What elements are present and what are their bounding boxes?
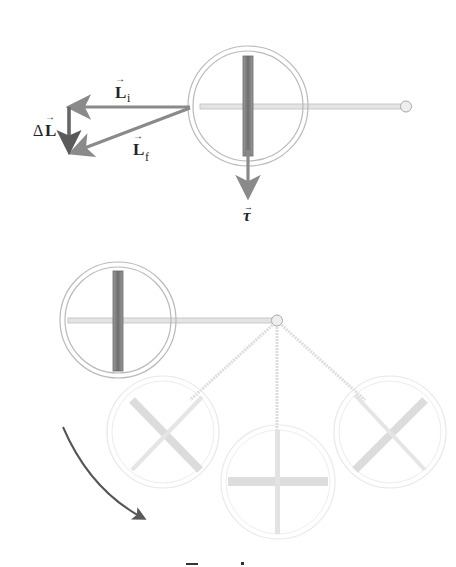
wheel-spoke-vertical (113, 271, 123, 371)
svg-text:Δ: Δ (33, 122, 43, 139)
svg-text:τ: τ (243, 206, 251, 225)
gyroscope-diagram: L i → Δ L → L f → → τ (0, 0, 456, 567)
faded-wheel-right (334, 376, 446, 488)
label-delta-L: Δ L → (33, 111, 56, 140)
bottom-panel (60, 262, 446, 539)
svg-text:L: L (133, 140, 144, 159)
pivot-ball-icon (401, 101, 412, 112)
svg-text:L: L (45, 121, 56, 140)
label-torque: → τ (243, 202, 253, 225)
vector-L-final (74, 108, 190, 152)
caption (186, 562, 244, 565)
vector-arrow-accent-icon: → (133, 130, 143, 141)
pivot-ball-icon (272, 315, 283, 326)
svg-text:i: i (127, 91, 131, 105)
rotation-direction-arrow (63, 427, 143, 518)
vector-arrow-accent-icon: → (45, 111, 55, 122)
wheel-spoke-vertical (243, 56, 253, 156)
faded-wheel-left (107, 376, 219, 488)
top-panel: L i → Δ L → L f → → τ (33, 46, 412, 225)
label-L-final: L f → (133, 130, 149, 164)
label-L-initial: L i → (115, 73, 131, 105)
faded-wheel-bottom (221, 425, 335, 539)
vector-arrow-accent-icon: → (115, 73, 125, 84)
axle-rod (200, 104, 403, 109)
svg-text:L: L (115, 83, 126, 102)
svg-text:f: f (145, 150, 149, 164)
